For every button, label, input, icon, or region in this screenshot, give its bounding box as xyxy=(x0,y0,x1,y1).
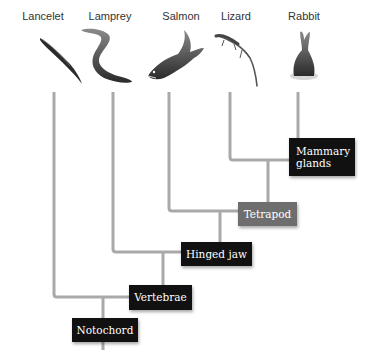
trait-box-notochord: Notochord xyxy=(72,318,138,342)
trait-label-vertebrae: Vertebrae xyxy=(134,291,187,303)
lamprey-icon xyxy=(81,29,132,83)
lancelet-icon xyxy=(40,38,82,84)
trait-label-notochord: Notochord xyxy=(77,324,134,336)
rabbit-icon xyxy=(290,31,318,80)
trait-label-hinged-jaw: Hinged jaw xyxy=(186,248,247,260)
trait-label-mammary-line1: Mammary xyxy=(296,145,350,157)
salmon-icon xyxy=(148,30,204,79)
lizard-icon xyxy=(216,35,257,86)
trait-label-tetrapod: Tetrapod xyxy=(244,208,292,220)
trait-box-vertebrae: Vertebrae xyxy=(129,285,192,310)
trait-label-mammary-line2: glands xyxy=(296,157,331,169)
trait-box-mammary-glands: Mammary glands xyxy=(289,138,355,176)
trait-box-tetrapod: Tetrapod xyxy=(238,202,297,226)
trait-box-hinged-jaw: Hinged jaw xyxy=(181,242,252,266)
